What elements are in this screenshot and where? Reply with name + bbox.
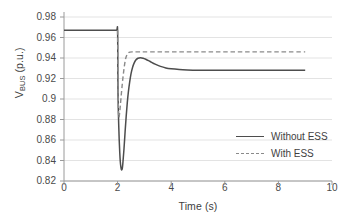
solid-line-icon [236, 132, 264, 142]
legend-label: Without ESS [271, 131, 328, 142]
legend-item-1[interactable]: Without ESS [236, 128, 352, 145]
plot-area [0, 0, 352, 223]
series-line-2 [118, 30, 306, 117]
legend: Without ESSWith ESS [236, 128, 352, 162]
chart-figure: VBUS (p.u.) 0.820.840.860.880.90.920.940… [0, 0, 352, 223]
dashed-line-icon [236, 149, 264, 159]
legend-label: With ESS [271, 148, 314, 159]
legend-item-2[interactable]: With ESS [236, 145, 352, 162]
